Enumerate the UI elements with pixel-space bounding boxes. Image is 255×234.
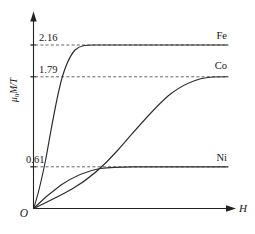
origin-label: O xyxy=(20,207,29,219)
x-axis-label: H xyxy=(238,202,248,214)
magnetization-figure: 2.16 1.79 0.61 Fe Co Ni O H μ0M/T xyxy=(0,0,255,234)
y-tick-label-fe: 2.16 xyxy=(39,32,57,43)
magnetization-chart: 2.16 1.79 0.61 Fe Co Ni O H μ0M/T xyxy=(0,0,255,234)
y-axis-arrowhead xyxy=(30,12,36,22)
y-axis-label: μ0M/T xyxy=(9,77,20,103)
y-axis xyxy=(30,12,36,210)
y-tick-label-ni: 0.61 xyxy=(26,154,44,165)
y-axis-label-main: M/T xyxy=(9,77,19,95)
y-tick-label-co: 1.79 xyxy=(39,64,57,75)
x-axis xyxy=(34,205,237,211)
curve-ni xyxy=(34,167,229,209)
series-label-ni: Ni xyxy=(217,152,228,163)
curve-co xyxy=(34,77,229,209)
series-label-fe: Fe xyxy=(217,30,228,41)
svg-text:μ0M/T: μ0M/T xyxy=(9,77,20,103)
series-label-co: Co xyxy=(215,60,227,71)
x-axis-arrowhead xyxy=(226,205,236,211)
